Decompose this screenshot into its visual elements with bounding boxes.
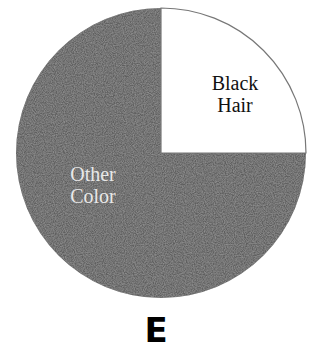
label-line: Black (190, 72, 280, 94)
label-line: Color (48, 185, 138, 207)
label-line: Hair (190, 94, 280, 116)
slice-label-other-color: Other Color (48, 163, 138, 207)
label-line: Other (48, 163, 138, 185)
figure-caption: E (0, 313, 312, 346)
slice-label-black-hair: Black Hair (190, 72, 280, 116)
